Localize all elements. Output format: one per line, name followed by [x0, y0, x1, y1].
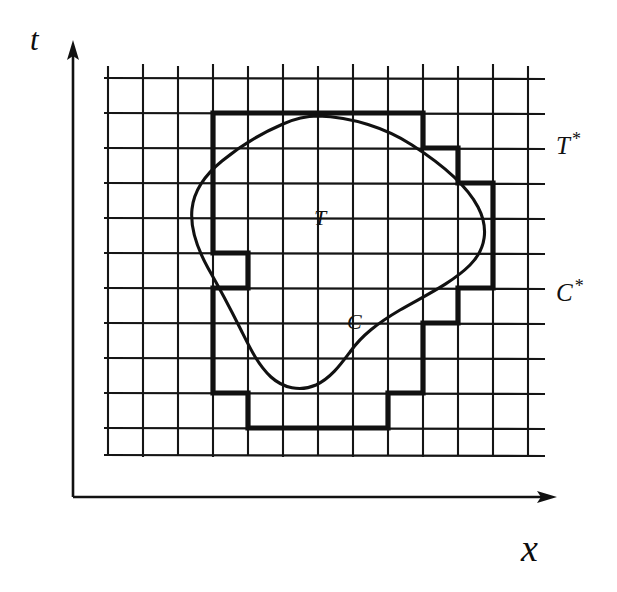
grid-line-h-2	[104, 148, 545, 149]
boundary-complex-asterisk: *	[575, 276, 584, 296]
grid-line-h-11	[104, 455, 545, 456]
outer-complex-label-T-star: T*	[556, 130, 581, 158]
boundary-complex-label-C-star: C*	[556, 277, 584, 305]
lattice-grid	[104, 64, 545, 457]
t-axis-label: t	[30, 24, 39, 55]
grid-line-h-0	[104, 78, 545, 79]
region-label-C: C	[347, 311, 362, 333]
outer-complex-asterisk: *	[572, 129, 581, 149]
grid-line-h-8	[104, 358, 545, 359]
grid-line-h-7	[104, 323, 545, 324]
grid-line-h-9	[104, 393, 545, 394]
axes-group	[67, 40, 557, 503]
boundary-complex-letter: C	[556, 279, 573, 306]
x-axis-label: x	[521, 529, 538, 567]
region-label-T: T	[314, 207, 326, 229]
figure-root: t x T C T* C*	[0, 0, 617, 592]
outer-complex-letter: T	[556, 132, 570, 159]
figure-canvas	[0, 0, 617, 592]
